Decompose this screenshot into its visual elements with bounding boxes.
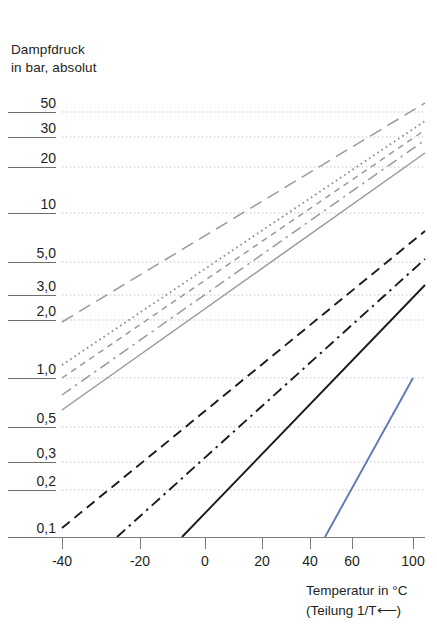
gridlines xyxy=(62,112,425,490)
y-tick-label: 0,3 xyxy=(8,445,56,463)
series-line-line-6 xyxy=(62,231,425,528)
y-tick-label: 0,2 xyxy=(8,473,56,491)
x-tick-label: -20 xyxy=(130,553,150,569)
x-tick-mark xyxy=(310,538,311,549)
x-axis-label: Temperatur in °C xyxy=(306,583,407,598)
y-tick-label: 50 xyxy=(8,95,56,113)
series-line-line-4 xyxy=(62,140,425,395)
x-tick-label: 0 xyxy=(201,553,209,569)
y-tick-label: 10 xyxy=(8,196,56,214)
x-tick-label: 100 xyxy=(401,553,424,569)
y-tick-label: 1,0 xyxy=(8,361,56,379)
x-tick-label: -40 xyxy=(52,553,72,569)
plot-svg xyxy=(62,100,425,537)
series-line-line-8 xyxy=(182,285,425,537)
y-tick-label: 2,0 xyxy=(8,303,56,321)
series-line-line-7 xyxy=(117,259,425,537)
y-tick-label: 5,0 xyxy=(8,245,56,263)
chart-title-line-1: Dampfdruck xyxy=(11,42,85,57)
x-tick-mark xyxy=(352,538,353,549)
chart-title-line-2: in bar, absolut xyxy=(11,60,97,75)
x-tick-label: 40 xyxy=(302,553,318,569)
series-line-line-5 xyxy=(62,153,425,410)
x-tick-mark xyxy=(205,538,206,549)
x-axis-label-note: (Teilung 1/T⟵) xyxy=(306,602,401,618)
vapor-pressure-chart: Dampfdruck in bar, absolut 503020105,03,… xyxy=(0,0,437,628)
series-line-line-2 xyxy=(62,121,425,365)
y-tick-label: 0,1 xyxy=(8,520,56,538)
y-tick-label: 20 xyxy=(8,150,56,168)
y-tick-label: 3,0 xyxy=(8,278,56,296)
series-line-line-9 xyxy=(325,378,413,537)
x-tick-mark xyxy=(262,538,263,549)
x-tick-label: 20 xyxy=(254,553,270,569)
x-tick-label: 60 xyxy=(344,553,360,569)
x-axis-line xyxy=(48,537,425,538)
plot-area xyxy=(62,100,425,537)
y-tick-label: 0,5 xyxy=(8,410,56,428)
x-tick-mark xyxy=(62,538,63,549)
x-tick-mark xyxy=(413,538,414,549)
y-tick-label: 30 xyxy=(8,120,56,138)
x-tick-mark xyxy=(140,538,141,549)
